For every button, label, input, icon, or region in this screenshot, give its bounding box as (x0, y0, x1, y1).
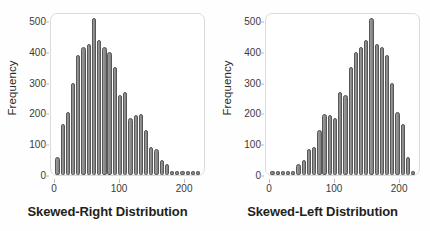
y-tick-mark (260, 114, 264, 115)
y-tick-mark (45, 52, 49, 53)
histogram-bar (144, 130, 148, 175)
y-tick-label: 300 (231, 79, 261, 89)
histogram-bar (134, 115, 138, 175)
histogram-bar (281, 171, 285, 175)
histogram-bar (307, 149, 311, 175)
histogram-bar (118, 95, 122, 175)
chart-panel-skewed-right: Frequency 0100200300400500 0100200 Skewe… (0, 0, 215, 231)
y-tick-mark (45, 83, 49, 84)
y-tick-mark (260, 22, 264, 23)
y-tick-label: 100 (231, 140, 261, 150)
histogram-bar (270, 171, 274, 175)
x-tick-label: 0 (51, 184, 57, 194)
y-tick-label: 100 (16, 140, 46, 150)
histogram-bar (317, 130, 321, 175)
y-tick-mark (260, 52, 264, 53)
y-axis-ticks-left: 0100200300400500 (14, 13, 46, 176)
histogram-bar (87, 44, 91, 175)
y-tick-label: 300 (16, 79, 46, 89)
chart-title-right: Skewed-Left Distribution (215, 204, 430, 219)
histogram-bar (186, 171, 190, 175)
histogram-bar (291, 171, 295, 175)
histogram-bars-left (51, 14, 204, 175)
y-tick-label: 0 (231, 171, 261, 181)
y-tick-mark (260, 145, 264, 146)
chart-panel-skewed-left: Frequency 0100200300400500 0100200 Skewe… (215, 0, 430, 231)
histogram-bar (123, 92, 127, 175)
histogram-bar (385, 55, 389, 175)
histogram-bar (170, 171, 174, 175)
histogram-bar (128, 118, 132, 175)
histogram-bar (322, 114, 326, 176)
y-tick-mark (260, 83, 264, 84)
y-tick-mark (45, 176, 49, 177)
histogram-bar (102, 47, 106, 175)
y-tick-label: 200 (231, 109, 261, 119)
y-tick-mark (45, 114, 49, 115)
histogram-bar (395, 112, 399, 175)
histogram-bar (113, 67, 117, 175)
histogram-bar (196, 171, 200, 175)
histogram-bar (55, 157, 59, 175)
y-axis-ticks-right: 0100200300400500 (229, 13, 261, 176)
y-tick-label: 400 (231, 48, 261, 58)
histogram-bar (390, 83, 394, 175)
histogram-bar (369, 18, 373, 175)
histogram-bar (165, 164, 169, 175)
x-axis-ticks-right: 0100200 (265, 179, 420, 203)
x-axis-ticks-left: 0100200 (50, 179, 205, 203)
y-tick-label: 0 (16, 171, 46, 181)
plot-area-left (50, 13, 205, 176)
histogram-bar (71, 83, 75, 175)
histogram-bar (296, 164, 300, 175)
histogram-bar (160, 160, 164, 175)
x-tick-label: 100 (326, 184, 343, 194)
histogram-bar (354, 52, 358, 175)
histogram-bar (76, 55, 80, 175)
histogram-bar (328, 115, 332, 175)
histogram-bar (180, 171, 184, 175)
histogram-bar (175, 171, 179, 175)
histogram-bar (191, 171, 195, 175)
histogram-bar (66, 112, 70, 175)
histogram-bar (406, 157, 410, 175)
figure-root: Frequency 0100200300400500 0100200 Skewe… (0, 0, 430, 231)
histogram-bar (359, 47, 363, 175)
histogram-bar (349, 67, 353, 175)
y-tick-mark (260, 176, 264, 177)
y-tick-label: 500 (16, 17, 46, 27)
histogram-bar (61, 124, 65, 175)
histogram-bar (411, 171, 415, 175)
histogram-bar (276, 171, 280, 175)
histogram-bar (338, 92, 342, 175)
plot-area-right (265, 13, 420, 176)
histogram-bar (302, 160, 306, 175)
histogram-bar (81, 47, 85, 175)
x-tick-label: 200 (176, 184, 193, 194)
x-tick-label: 100 (111, 184, 128, 194)
y-tick-label: 500 (231, 17, 261, 27)
histogram-bar (149, 147, 153, 175)
histogram-bar (154, 149, 158, 175)
histogram-bar (92, 18, 96, 175)
x-tick-label: 0 (266, 184, 272, 194)
chart-title-left: Skewed-Right Distribution (0, 204, 215, 219)
y-tick-label: 400 (16, 48, 46, 58)
y-tick-mark (45, 22, 49, 23)
histogram-bar (401, 124, 405, 175)
histogram-bar (333, 118, 337, 175)
histogram-bars-right (266, 14, 419, 175)
y-tick-mark (45, 145, 49, 146)
histogram-bar (286, 171, 290, 175)
histogram-bar (97, 40, 101, 175)
x-tick-label: 200 (391, 184, 408, 194)
histogram-bar (375, 44, 379, 175)
y-tick-label: 200 (16, 109, 46, 119)
histogram-bar (364, 40, 368, 175)
histogram-bar (139, 114, 143, 176)
histogram-bar (343, 95, 347, 175)
histogram-bar (312, 147, 316, 175)
histogram-bar (107, 52, 111, 175)
histogram-bar (380, 47, 384, 175)
